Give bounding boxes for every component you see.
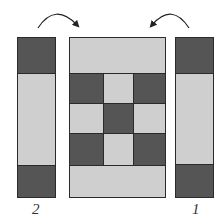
grid-cell-r3c2 <box>104 133 134 165</box>
left-strip-label: 2 <box>32 201 40 218</box>
center-bottom-band <box>70 165 165 197</box>
grid-cell-r1c1 <box>70 73 104 103</box>
grid-cell-r1c2 <box>104 73 134 103</box>
grid-cell-r3c3 <box>134 133 165 165</box>
right-strip-bottom-dark <box>176 164 213 197</box>
left-strip-rotate-arrow <box>38 14 77 28</box>
grid-cell-r3c1 <box>70 133 104 165</box>
left-strip-top-dark <box>18 38 55 73</box>
right-strip-middle-light <box>176 73 213 164</box>
left-strip <box>17 37 56 198</box>
right-strip-label: 1 <box>192 201 200 218</box>
right-strip-top-dark <box>176 38 213 73</box>
center-panel <box>69 37 166 198</box>
left-strip-middle-light <box>18 73 55 165</box>
grid-cell-r2c1 <box>70 103 104 133</box>
right-strip <box>175 37 214 198</box>
grid-cell-r1c3 <box>134 73 165 103</box>
center-top-band <box>70 38 165 73</box>
grid-cell-r2c3 <box>134 103 165 133</box>
right-strip-rotate-arrow <box>152 14 189 28</box>
left-strip-bottom-dark <box>18 165 55 197</box>
grid-cell-r2c2 <box>104 103 134 133</box>
